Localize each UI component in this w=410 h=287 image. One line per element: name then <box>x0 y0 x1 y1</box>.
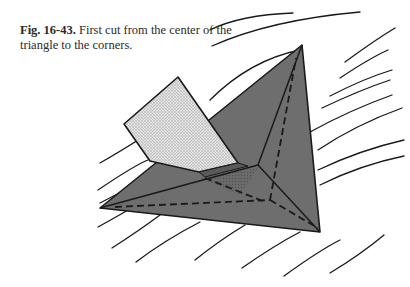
triangle-cut-illustration <box>0 0 410 287</box>
